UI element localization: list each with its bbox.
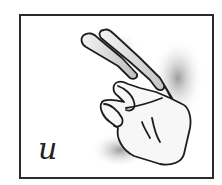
hand-sign-u-icon: [0, 0, 222, 185]
sign-letter-label: u: [38, 134, 57, 164]
